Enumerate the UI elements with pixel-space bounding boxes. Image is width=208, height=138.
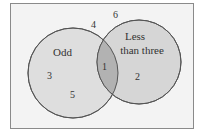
less-than-three-label-line1: Less	[125, 30, 145, 42]
element-5: 5	[70, 89, 75, 100]
element-6: 6	[113, 9, 118, 20]
venn-diagram: Odd 3 5 1 Less than three 2 4 6	[0, 0, 208, 138]
element-1: 1	[102, 61, 107, 72]
element-3: 3	[47, 70, 52, 81]
element-2: 2	[135, 71, 140, 82]
element-4: 4	[91, 19, 96, 30]
less-than-three-label-line2: than three	[120, 44, 164, 56]
odd-label: Odd	[53, 46, 72, 58]
